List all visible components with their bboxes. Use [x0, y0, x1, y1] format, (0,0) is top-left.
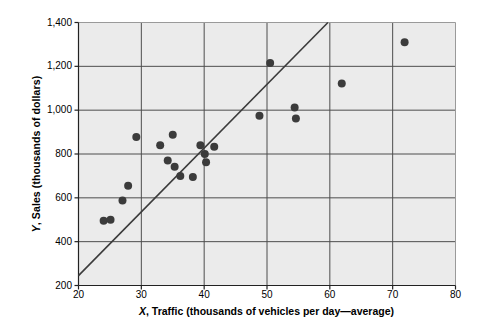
data-point — [202, 158, 210, 166]
data-point — [100, 217, 108, 225]
x-axis-tick-labels: 20304050607080 — [0, 290, 486, 306]
data-point — [171, 163, 179, 171]
y-axis-title-symbol: Y — [30, 225, 42, 232]
y-tick-label: 200 — [8, 281, 72, 291]
x-tick-label: 50 — [247, 290, 287, 300]
x-tick-label: 40 — [184, 290, 224, 300]
data-point — [176, 172, 184, 180]
data-point — [156, 141, 164, 149]
x-tick-label: 60 — [310, 290, 350, 300]
data-point — [196, 141, 204, 149]
data-point — [266, 59, 274, 67]
y-axis-title-text: , Sales (thousands of dollars) — [30, 76, 42, 225]
data-point — [292, 114, 300, 122]
data-point — [291, 104, 299, 112]
x-tick-label: 80 — [436, 290, 476, 300]
data-point — [338, 79, 346, 87]
x-axis-title: X, Traffic (thousands of vehicles per da… — [78, 305, 455, 317]
x-axis-title-text: , Traffic (thousands of vehicles per day… — [146, 305, 394, 317]
plot-canvas — [0, 0, 486, 330]
x-tick-label: 20 — [59, 290, 99, 300]
scatter-plot-figure: 2004006008001,0001,2001,400 203040506070… — [0, 0, 486, 330]
data-point — [401, 38, 409, 46]
data-point — [189, 173, 197, 181]
data-point — [164, 157, 172, 165]
data-point — [118, 196, 126, 204]
data-point — [107, 216, 115, 224]
data-point — [124, 182, 132, 190]
data-point — [169, 131, 177, 139]
x-axis-title-symbol: X — [139, 305, 146, 317]
y-axis-title: Y, Sales (thousands of dollars) — [30, 34, 42, 274]
data-point — [201, 150, 209, 158]
data-point — [210, 143, 218, 151]
data-point — [255, 112, 263, 120]
data-point — [132, 133, 140, 141]
y-tick-label: 1,400 — [8, 18, 72, 28]
x-tick-label: 30 — [121, 290, 161, 300]
x-tick-label: 70 — [373, 290, 413, 300]
